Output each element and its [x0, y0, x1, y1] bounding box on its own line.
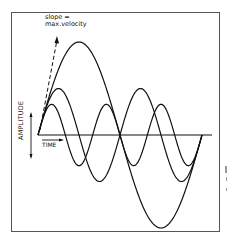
slope-annotation: slope = max.velocity	[45, 14, 87, 28]
slope-tangent-line	[40, 40, 57, 130]
waveform-plot	[0, 0, 231, 246]
cropped-text-fragment	[226, 188, 227, 191]
cropped-text-fragment	[225, 166, 227, 173]
arrow-up-icon	[30, 112, 33, 117]
time-label: TIME	[42, 141, 56, 148]
amplitude-label: AMPLITUDE	[18, 101, 25, 140]
arrow-down-icon	[30, 154, 33, 159]
slope-arrowhead-icon	[55, 36, 60, 44]
cropped-text-fragment	[226, 177, 227, 181]
slope-label-line2: max.velocity	[45, 21, 87, 28]
arrow-right-icon	[59, 139, 64, 142]
